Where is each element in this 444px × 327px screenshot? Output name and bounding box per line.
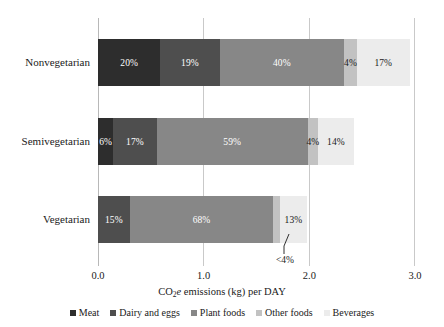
callout-label-under-4-percent: <4% (276, 255, 294, 265)
legend-item-label: Meat (79, 307, 100, 318)
legend-item[interactable]: Other foods (256, 307, 313, 318)
bar-segment: 59% (157, 118, 308, 165)
legend-item[interactable]: Meat (70, 307, 100, 318)
legend-item[interactable]: Dairy and eggs (110, 307, 180, 318)
bar-segment: 68% (130, 196, 274, 243)
stacked-bar-chart: Nonvegetarian Semivegetarian Vegetarian … (0, 0, 444, 327)
category-label-vegetarian: Vegetarian (0, 213, 90, 225)
bar-segment: 15% (98, 196, 130, 243)
x-axis-tick-label: 1.0 (197, 270, 210, 281)
bar-segment-value-label: 15% (105, 215, 123, 225)
legend-swatch-icon (70, 310, 76, 316)
bar-segment-value-label: 14% (327, 137, 345, 147)
bar-segment: 17% (113, 118, 156, 165)
bar-segment: 4% (308, 118, 318, 165)
legend-swatch-icon (256, 310, 262, 316)
bar-segment-value-label: 19% (181, 58, 199, 68)
legend-item-label: Plant foods (200, 307, 245, 318)
bar-segment: 4% (344, 39, 357, 86)
x-axis-tick-label: 3.0 (408, 270, 421, 281)
bar-segment: 19% (160, 39, 219, 86)
legend-item[interactable]: Plant foods (191, 307, 245, 318)
bar-segment-value-label: 68% (193, 215, 211, 225)
bar-segment-value-label: 13% (285, 215, 303, 225)
bar-segment: 6% (98, 118, 113, 165)
bar-segment: 17% (357, 39, 410, 86)
legend-swatch-icon (324, 310, 330, 316)
x-axis-title-co2: CO2e emissions (kg) per DAY (158, 286, 286, 297)
bar-segment-value-label: 59% (223, 137, 241, 147)
category-label-semivegetarian: Semivegetarian (0, 135, 90, 147)
bar-segment: 14% (318, 118, 354, 165)
legend-item-label: Other foods (265, 307, 313, 318)
legend-item-label: Beverages (333, 307, 375, 318)
bar-segment-value-label: 20% (120, 58, 138, 68)
legend-item[interactable]: Beverages (324, 307, 375, 318)
callout-leader-line (276, 234, 300, 256)
bar-segment-value-label: 17% (374, 58, 392, 68)
bar-segment-value-label: 4% (306, 137, 319, 147)
gridline-3 (414, 18, 415, 266)
bar-segment-value-label: 4% (344, 58, 357, 68)
legend-item-label: Dairy and eggs (119, 307, 180, 318)
bar-segment: 40% (220, 39, 345, 86)
bar-segment-value-label: 40% (273, 58, 291, 68)
category-label-nonvegetarian: Nonvegetarian (0, 56, 90, 68)
bar-segment-value-label: 17% (126, 137, 144, 147)
x-axis-tick-label: 0.0 (91, 270, 104, 281)
bar-row: 20%19%40%4%17% (98, 39, 410, 86)
bar-segment-value-label: 6% (99, 137, 112, 147)
x-axis-title: CO2e emissions (kg) per DAY (0, 286, 444, 297)
x-axis-tick-label: 2.0 (303, 270, 316, 281)
bar-segment: 20% (98, 39, 160, 86)
legend-swatch-icon (191, 310, 197, 316)
bar-row: 6%17%59%4%14% (98, 118, 354, 165)
legend-swatch-icon (110, 310, 116, 316)
chart-legend: MeatDairy and eggsPlant foodsOther foods… (0, 307, 444, 318)
